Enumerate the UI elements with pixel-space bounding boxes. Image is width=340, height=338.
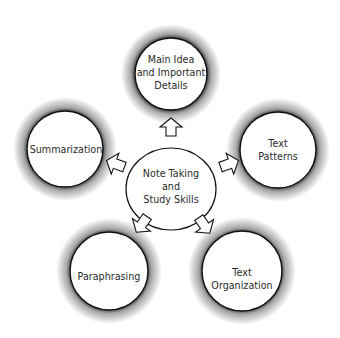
node-text-patterns-line-2: Patterns [258, 151, 298, 162]
node-text-organization-line-1: Text [231, 267, 252, 278]
node-paraphrasing: Paraphrasing [70, 232, 148, 310]
node-text-organization-line-2: Organization [211, 280, 272, 291]
node-main-idea: Main Idea and Important Details [135, 38, 207, 110]
node-summarization: Summarization [27, 111, 103, 187]
node-center-line-2: and [162, 181, 180, 192]
node-main-idea-line-1: Main Idea [148, 54, 195, 65]
node-center-line-1: Note Taking [143, 168, 199, 179]
node-text-organization: Text Organization [202, 231, 282, 311]
node-paraphrasing-line-1: Paraphrasing [78, 271, 141, 282]
node-text-patterns-line-1: Text [267, 138, 288, 149]
node-summarization-line-1: Summarization [30, 144, 103, 155]
node-center-line-3: Study Skills [143, 194, 198, 205]
node-text-patterns: Text Patterns [240, 112, 316, 188]
node-main-idea-line-3: Details [154, 80, 187, 91]
note-taking-diagram: Main Idea and Important Details Text Pat… [0, 0, 340, 338]
node-main-idea-line-2: and Important [137, 67, 206, 78]
